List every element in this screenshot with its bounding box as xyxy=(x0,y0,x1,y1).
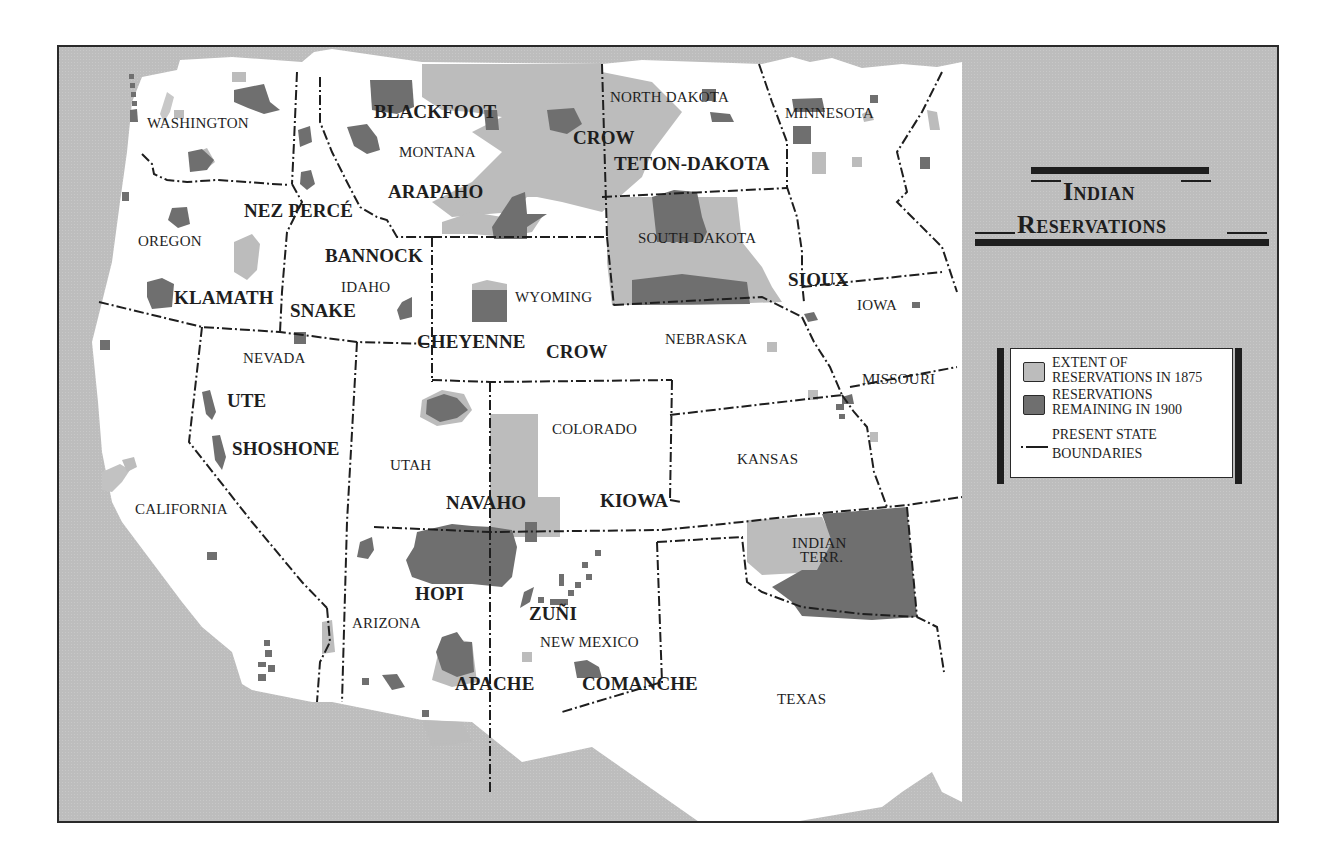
tribe-label-blackfoot: BLACKFOOT xyxy=(374,102,496,121)
legend-swatch-extent-1875 xyxy=(1023,362,1045,382)
state-label-montana: MONTANA xyxy=(399,145,476,160)
state-label-idaho: IDAHO xyxy=(341,280,390,295)
tribe-label-ute: UTE xyxy=(227,391,266,410)
tribe-label-cheyenne: CHEYENNE xyxy=(417,332,525,351)
tribe-label-arapaho: ARAPAHO xyxy=(388,182,483,201)
state-label-nebraska: NEBRASKA xyxy=(665,332,747,347)
state-label-minnesota: MINNESOTA xyxy=(785,106,874,121)
legend-text-line: REMAINING IN 1900 xyxy=(1052,402,1182,417)
state-label-south-dakota: SOUTH DAKOTA xyxy=(638,231,756,246)
map-frame: WASHINGTONOREGONCALIFORNIANEVADAIDAHOMON… xyxy=(57,45,1279,823)
title-rule-bottom-right xyxy=(1227,232,1267,234)
tribe-label-crow: CROW xyxy=(546,342,608,361)
state-label-arizona: ARIZONA xyxy=(352,616,421,631)
tribe-label-sioux: SIOUX xyxy=(788,270,849,289)
state-label-new-mexico: NEW MEXICO xyxy=(540,635,639,650)
legend-text-line: EXTENT OF xyxy=(1052,355,1202,370)
legend-text-line: BOUNDARIES xyxy=(1052,446,1157,461)
tribe-label-crow: CROW xyxy=(573,128,635,147)
state-label-nevada: NEVADA xyxy=(243,351,306,366)
map-title: Indian Reservations xyxy=(973,167,1273,257)
tribe-label-hopi: HOPI xyxy=(415,584,464,603)
legend-box: EXTENT OF RESERVATIONS IN 1875 RESERVATI… xyxy=(1010,348,1233,478)
state-label-texas: TEXAS xyxy=(777,692,826,707)
legend-bar-left xyxy=(997,348,1004,484)
state-label-california: CALIFORNIA xyxy=(135,502,228,517)
tribe-label-bannock: BANNOCK xyxy=(325,246,423,265)
title-rule-top-left xyxy=(1031,180,1061,182)
state-label-oregon: OREGON xyxy=(138,234,202,249)
tribe-label-comanche: COMANCHE xyxy=(582,674,698,693)
state-label-north-dakota: NORTH DAKOTA xyxy=(610,90,729,105)
tribe-label-zu-i: ZUÑI xyxy=(529,604,577,623)
tribe-label-navaho: NAVAHO xyxy=(446,493,526,512)
legend-label-extent-1875: EXTENT OF RESERVATIONS IN 1875 xyxy=(1052,355,1202,385)
tribe-label-apache: APACHE xyxy=(455,674,534,693)
tribe-label-teton-dakota: TETON-DAKOTA xyxy=(614,154,770,173)
state-label-colorado: COLORADO xyxy=(552,422,637,437)
legend-label-boundaries: PRESENT STATE BOUNDARIES xyxy=(1052,427,1157,461)
state-label-utah: UTAH xyxy=(390,458,431,473)
state-label-kansas: KANSAS xyxy=(737,452,798,467)
legend-text-line: RESERVATIONS xyxy=(1052,387,1182,402)
state-label-terr: TERR. xyxy=(800,550,843,565)
title-bar-top xyxy=(1031,167,1209,174)
legend-label-remaining-1900: RESERVATIONS REMAINING IN 1900 xyxy=(1052,387,1182,417)
title-rule-bottom-left xyxy=(975,232,1015,234)
legend-dash-dot-line-icon xyxy=(1021,444,1051,450)
title-line-1: Indian xyxy=(1063,177,1135,207)
legend-bar-right xyxy=(1235,348,1242,484)
title-bar-bottom xyxy=(975,239,1269,246)
state-label-iowa: IOWA xyxy=(857,298,897,313)
state-label-wyoming: WYOMING xyxy=(515,290,592,305)
tribe-label-snake: SNAKE xyxy=(290,301,356,320)
legend: EXTENT OF RESERVATIONS IN 1875 RESERVATI… xyxy=(997,348,1242,484)
title-line-2: Reservations xyxy=(1017,210,1167,240)
legend-swatch-remaining-1900 xyxy=(1023,395,1045,415)
tribe-label-nez-perc: NEZ PERCÉ xyxy=(244,201,353,220)
tribe-label-kiowa: KIOWA xyxy=(600,491,668,510)
tribe-label-shoshone: SHOSHONE xyxy=(232,439,339,458)
legend-text-line: PRESENT STATE xyxy=(1052,427,1157,442)
state-label-missouri: MISSOURI xyxy=(862,372,935,387)
tribe-label-klamath: KLAMATH xyxy=(174,288,274,307)
state-label-washington: WASHINGTON xyxy=(147,116,249,131)
title-rule-top-right xyxy=(1181,180,1211,182)
legend-text-line: RESERVATIONS IN 1875 xyxy=(1052,370,1202,385)
